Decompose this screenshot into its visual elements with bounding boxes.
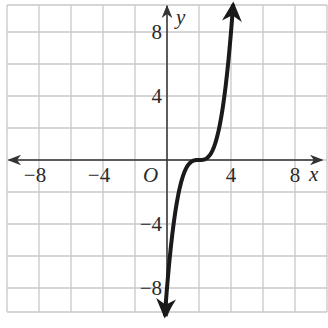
origin-label: O (143, 163, 158, 187)
y-tick-label: 4 (152, 84, 163, 108)
y-axis-label: y (174, 5, 186, 29)
x-tick-label: −8 (24, 163, 46, 187)
y-tick-label: 8 (152, 20, 163, 44)
x-tick-label: −4 (88, 163, 111, 187)
x-tick-label: 8 (290, 163, 301, 187)
x-tick-labels: −8−448 (24, 163, 300, 187)
x-axis-label: x (308, 162, 319, 186)
y-tick-label: −4 (140, 212, 163, 236)
graph: −8−448 84−4−8 O x y (0, 0, 328, 328)
x-tick-label: 4 (226, 163, 237, 187)
y-tick-label: −8 (140, 276, 162, 300)
